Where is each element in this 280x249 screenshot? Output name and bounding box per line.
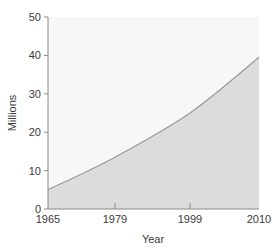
y-tick-label: 50 bbox=[29, 11, 41, 23]
x-axis-label: Year bbox=[142, 233, 165, 245]
x-tick-label: 1965 bbox=[36, 213, 60, 225]
y-tick-label: 40 bbox=[29, 49, 41, 61]
y-tick-label: 30 bbox=[29, 88, 41, 100]
area-chart: 50403020100 1965197919992010 Millions Ye… bbox=[0, 0, 280, 249]
x-tick-label: 2010 bbox=[247, 213, 271, 225]
chart-canvas: 50403020100 1965197919992010 Millions Ye… bbox=[0, 0, 280, 249]
y-tick-label: 20 bbox=[29, 126, 41, 138]
y-axis-ticks: 50403020100 bbox=[29, 11, 48, 215]
x-tick-label: 1999 bbox=[178, 213, 202, 225]
x-tick-label: 1979 bbox=[103, 213, 127, 225]
y-axis-label: Millions bbox=[6, 94, 18, 131]
y-tick-label: 10 bbox=[29, 165, 41, 177]
